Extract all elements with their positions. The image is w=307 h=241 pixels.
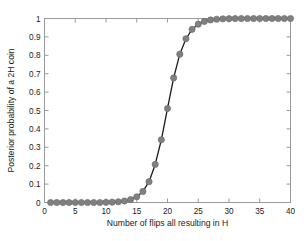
x-tick-label: 0 <box>42 207 47 216</box>
data-point <box>226 16 232 22</box>
y-tick-label: 0.3 <box>29 143 41 152</box>
data-point <box>275 15 281 21</box>
y-axis-title: Posterior probability of a 2H coin <box>6 48 16 172</box>
data-point <box>244 15 250 21</box>
data-point <box>78 199 84 205</box>
data-point <box>97 199 103 205</box>
y-tick-label: 0 <box>36 199 41 208</box>
data-point <box>287 15 293 21</box>
y-tick-label: 0.9 <box>29 33 41 42</box>
x-tick-label: 10 <box>101 207 111 216</box>
y-tick-label: 0.7 <box>29 70 41 79</box>
x-tick-label: 40 <box>286 207 296 216</box>
x-tick-label: 5 <box>73 207 78 216</box>
data-point <box>91 199 97 205</box>
y-tick-label: 1 <box>36 15 41 24</box>
y-tick-label: 0.4 <box>29 125 41 134</box>
data-point <box>269 15 275 21</box>
data-point <box>134 194 140 200</box>
data-point <box>177 51 183 57</box>
chart-page: 00.10.20.30.40.50.60.70.80.91 0510152025… <box>0 0 307 241</box>
data-point <box>121 198 127 204</box>
data-point <box>66 199 72 205</box>
data-point <box>281 15 287 21</box>
x-axis-title: Number of flips all resulting in H <box>107 218 228 228</box>
x-tick-label: 30 <box>224 207 234 216</box>
data-point <box>115 199 121 205</box>
y-tick-label: 0.8 <box>29 51 41 60</box>
y-tick-label: 0.1 <box>29 180 41 189</box>
data-point <box>171 75 177 81</box>
data-point <box>189 26 195 32</box>
data-point <box>164 105 170 111</box>
y-tick-label: 0.5 <box>29 107 41 116</box>
data-point <box>128 196 134 202</box>
data-point <box>152 161 158 167</box>
data-point <box>103 199 109 205</box>
x-tick-label: 25 <box>194 207 204 216</box>
data-point <box>54 199 60 205</box>
data-point <box>263 15 269 21</box>
data-point <box>72 199 78 205</box>
data-point <box>195 21 201 27</box>
data-point <box>183 36 189 42</box>
data-point <box>146 179 152 185</box>
data-point <box>238 15 244 21</box>
data-point <box>220 16 226 22</box>
data-point <box>257 15 263 21</box>
data-point <box>201 18 207 24</box>
data-point <box>60 199 66 205</box>
data-point <box>207 17 213 23</box>
x-tick-label: 20 <box>163 207 173 216</box>
data-point <box>158 137 164 143</box>
posterior-probability-chart: 00.10.20.30.40.50.60.70.80.91 0510152025… <box>0 0 307 241</box>
x-tick-label: 15 <box>132 207 142 216</box>
x-tick-label: 35 <box>255 207 265 216</box>
data-point <box>140 188 146 194</box>
y-tick-label: 0.2 <box>29 162 41 171</box>
data-point <box>232 15 238 21</box>
data-point <box>251 15 257 21</box>
y-tick-label: 0.6 <box>29 88 41 97</box>
data-point <box>109 199 115 205</box>
data-point <box>48 199 54 205</box>
data-point <box>214 16 220 22</box>
data-point <box>84 199 90 205</box>
chart-background <box>0 0 307 241</box>
